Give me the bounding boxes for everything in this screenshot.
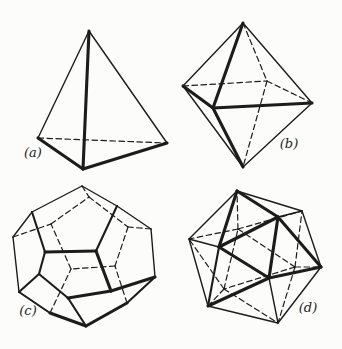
dodecahedron-edge-d0-d1 <box>82 186 117 206</box>
octahedron-edge-back-right-hidden <box>267 81 312 103</box>
octahedron-edge-top-front <box>213 23 243 108</box>
dodecahedron-edge-b1-b2-hidden <box>115 227 128 266</box>
dodecahedron-edge-d7-d8 <box>13 237 19 292</box>
icosahedron-edge-h3-h4 <box>208 306 278 323</box>
octahedron-edge-top-right <box>243 23 312 103</box>
figure-label-a: (a) <box>24 145 42 160</box>
icosahedron-edge-h4-f2 <box>208 278 269 306</box>
dodecahedron-edge-f0-f1 <box>45 251 96 252</box>
icosahedron-edge-h4-h5 <box>189 239 208 306</box>
figure-label-c: (c) <box>19 303 36 318</box>
dodecahedron-edge-d4-b2-hidden <box>115 266 127 303</box>
figure-label-b: (b) <box>280 136 298 151</box>
octahedron-edge-right-bottom <box>243 103 312 167</box>
icosahedron-edge-h1-h2 <box>302 211 321 267</box>
icosahedron-edge-h4-f0 <box>208 247 219 306</box>
platonic-solids-figure: (a) (b) (c) (d) <box>0 0 342 349</box>
tetrahedron-edge-front-right <box>83 143 167 169</box>
dodecahedron-edge-b2-b3-hidden <box>71 266 115 269</box>
dodecahedron-edge-d9-d0 <box>32 186 82 212</box>
tetrahedron-edge-left-right-hidden <box>38 138 167 143</box>
dodecahedron-edge-d4-d5 <box>86 303 127 326</box>
icosahedron-edge-b0-h0-hidden <box>237 191 238 229</box>
dodecahedron-edge-f1-f2 <box>96 251 111 291</box>
dodecahedron-edge-d2-d3 <box>151 229 155 277</box>
dodecahedron-edge-f3-f4 <box>39 274 68 298</box>
dodecahedron-edge-d9-f0 <box>32 212 45 252</box>
icosahedron-edge-h0-h1 <box>237 191 302 211</box>
octahedron-edge-top-left <box>183 23 243 86</box>
icosahedron-edge-h5-f0 <box>189 239 219 247</box>
octahedron-edge-front-right <box>213 103 312 108</box>
octahedron-edge-left-back-hidden <box>183 81 267 86</box>
tetrahedron-edge-apex-left <box>38 31 89 138</box>
octahedron-edge-top-back-hidden <box>243 23 267 81</box>
tetrahedron-edge-left-front <box>38 138 83 169</box>
dodecahedron-edge-b4-b0-hidden <box>51 197 89 224</box>
dodecahedron-edge-d7-f4 <box>19 274 39 292</box>
tetrahedron-edge-apex-front <box>83 31 89 169</box>
icosahedron-edge-f2-f0 <box>219 247 269 278</box>
dodecahedron-edge-f4-f0 <box>39 252 45 274</box>
icosahedron-edge-h1-f1 <box>278 211 302 217</box>
figure-label-d: (d) <box>299 300 317 315</box>
octahedron-edge-left-bottom <box>183 86 243 167</box>
tetrahedron-diagram <box>38 31 167 169</box>
dodecahedron-edge-b3-b4-hidden <box>51 224 71 269</box>
dodecahedron-edge-f2-f3 <box>68 291 111 298</box>
dodecahedron-edge-d1-f1 <box>96 206 117 251</box>
figure-canvas: (a) (b) (c) (d) <box>0 0 342 349</box>
octahedron-edge-back-bottom-hidden <box>243 81 267 167</box>
octahedron-edge-front-bottom <box>213 108 243 167</box>
icosahedron-edge-h3-f2 <box>269 278 278 323</box>
dodecahedron-edge-d1-d2 <box>117 206 151 229</box>
octahedron-edge-left-front <box>183 86 213 108</box>
tetrahedron-edge-apex-right <box>89 31 167 143</box>
icosahedron-edge-f1-f2 <box>269 217 278 278</box>
icosahedron-edge-h0-f1 <box>237 191 278 217</box>
icosahedron-edge-b0-h5-hidden <box>189 229 238 239</box>
